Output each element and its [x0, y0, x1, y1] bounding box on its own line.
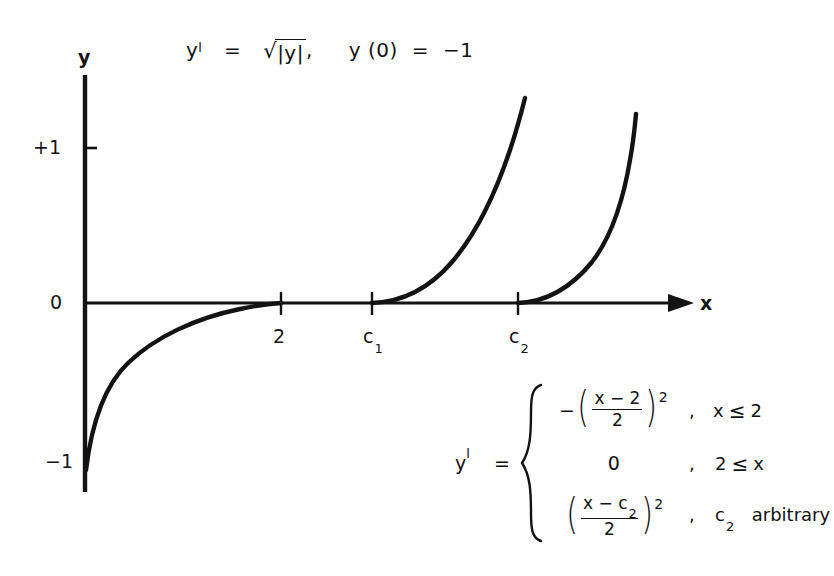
right-paren: ): [646, 392, 658, 425]
piecewise-row: ( x − c2 2 ) 2 , c2 arbitrary: [548, 490, 830, 543]
left-curly-brace-icon: [519, 383, 545, 543]
piecewise-row-2-condition: , 2≤x: [680, 451, 764, 475]
piecewise-row: 0 , 2≤x: [548, 437, 830, 490]
x-tick-label-c2-sub: 2: [520, 341, 528, 356]
x-tick-label-c1: c1: [363, 327, 382, 350]
less-or-equal-icon: ≤: [724, 399, 751, 423]
x-tick-label-c2-base: c: [509, 325, 519, 347]
piecewise-row: − ( x − 2 2 ) 2 , x≤2: [548, 383, 830, 436]
zero-value: 0: [608, 452, 620, 474]
piecewise-row-3-condition: , c2 arbitrary: [680, 504, 830, 529]
parenthesized-fraction: ( x − 2 2 ) 2: [575, 389, 669, 430]
right-paren: ): [641, 499, 653, 532]
numerator-subscript: 2: [629, 506, 637, 521]
curve-branch-c2: [518, 114, 636, 303]
piecewise-lhs-equals: =: [494, 453, 510, 475]
title-comma: ,: [306, 38, 315, 62]
x-tick-label-c1-base: c: [363, 325, 373, 347]
condition-text: arbitrary: [752, 504, 830, 525]
ode-solution-figure: yl = √ |y| , y (0) = −1 y x +1 0 −1 2 c1…: [0, 0, 834, 576]
curve-initial-branch: [86, 303, 281, 470]
curve-branch-c1: [372, 98, 525, 303]
piecewise-lhs-prime: l: [466, 446, 470, 461]
negative-sign: −: [559, 399, 575, 421]
y-tick-label-minus1: −1: [45, 452, 73, 471]
piecewise-row-3-expression: ( x − c2 2 ) 2: [548, 494, 680, 539]
x-tick-label-c2: c2: [509, 327, 528, 350]
piecewise-lhs-var: y: [455, 453, 466, 475]
exponent: 2: [659, 389, 668, 405]
condition-rhs: 2: [751, 400, 762, 421]
comma: ,: [689, 504, 695, 525]
x-tick-label-2-text: 2: [273, 325, 285, 347]
y-tick-label-zero: 0: [50, 293, 62, 312]
piecewise-row-1-condition: , x≤2: [680, 398, 762, 422]
parenthesized-fraction: ( x − c2 2 ) 2: [564, 494, 664, 539]
y-axis-label: y: [78, 48, 90, 67]
left-paren: (: [566, 499, 578, 532]
initial-condition-equals: =: [412, 38, 429, 62]
piecewise-rows: − ( x − 2 2 ) 2 , x≤2: [545, 383, 830, 543]
condition-rhs: x: [753, 453, 764, 474]
x-axis-arrowhead: [668, 294, 694, 312]
x-tick-label-2: 2: [273, 327, 285, 346]
comma: ,: [689, 400, 695, 421]
fraction-numerator: x − 2: [592, 389, 642, 409]
condition-variable: c: [715, 504, 725, 525]
numerator-text: x − c: [583, 493, 627, 513]
piecewise-row-2-expression: 0: [548, 452, 680, 474]
y-tick-label-plus1: +1: [33, 138, 61, 157]
title-equals: =: [224, 38, 241, 62]
initial-condition-value: −1: [443, 38, 473, 62]
fraction: x − 2 2: [591, 389, 643, 430]
square-root-icon: √ |y|: [263, 38, 306, 64]
fraction: x − c2 2: [580, 494, 639, 539]
condition-lhs: x: [713, 400, 724, 421]
radicand: |y|: [275, 39, 306, 65]
title-prime: l: [198, 40, 202, 55]
piecewise-definition: yl = − ( x − 2 2 ) 2: [455, 383, 830, 543]
x-axis-label: x: [700, 294, 712, 313]
piecewise-lhs: yl =: [455, 451, 519, 474]
left-paren: (: [577, 392, 589, 425]
fraction-numerator: x − c2: [581, 494, 638, 518]
comma: ,: [689, 453, 695, 474]
x-tick-label-c1-sub: 1: [374, 341, 382, 356]
fraction-denominator: 2: [581, 518, 638, 539]
condition-subscript: 2: [726, 519, 734, 534]
less-or-equal-icon: ≤: [727, 452, 754, 476]
piecewise-row-1-expression: − ( x − 2 2 ) 2: [548, 389, 680, 430]
condition-lhs: 2: [715, 453, 726, 474]
fraction-denominator: 2: [592, 409, 642, 430]
title-equation: yl = √ |y| , y (0) = −1: [186, 38, 474, 64]
initial-condition-fn: y (0): [349, 38, 398, 62]
title-lhs-var: y: [186, 38, 198, 62]
exponent: 2: [654, 496, 663, 512]
